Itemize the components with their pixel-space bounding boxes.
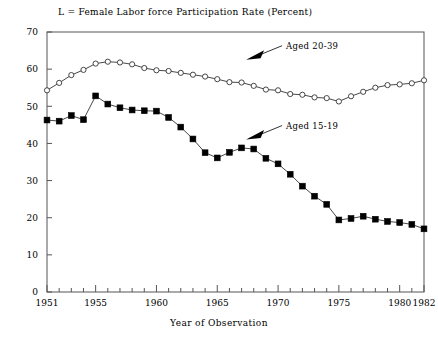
annotation-leader-line [260,46,282,55]
data-point-marker [227,80,232,85]
annotation-arrowhead [246,130,264,140]
data-point-marker [44,88,49,93]
data-series-layer [44,59,427,232]
x-tick-label: 1955 [84,298,107,308]
data-point-marker [190,136,196,142]
data-point-marker [348,216,354,222]
x-axis-label: Year of Observation [0,318,438,328]
data-point-marker [397,220,403,226]
data-point-marker [215,77,220,82]
data-point-marker [385,219,391,225]
data-point-marker [312,95,317,100]
y-tick-label: 40 [27,139,39,149]
data-point-marker [239,145,245,151]
data-point-marker [203,74,208,79]
plot-frame [47,32,424,292]
x-tick-label: 1975 [327,298,350,308]
data-point-marker [361,89,366,94]
data-point-marker [275,161,281,167]
data-point-marker [142,65,147,70]
data-point-marker [81,117,87,123]
data-point-marker [154,108,160,114]
data-point-marker [348,94,353,99]
data-point-marker [373,85,378,90]
data-point-marker [56,118,62,124]
data-point-marker [93,93,99,99]
data-point-marker [385,83,390,88]
data-point-marker [251,146,257,152]
data-point-marker [397,82,402,87]
data-point-marker [214,155,220,161]
data-point-marker [68,113,74,119]
y-tick-label: 50 [27,102,39,112]
x-tick-label: 1951 [36,298,59,308]
x-axis-ticks: 19511955196019651970197519801982 [36,285,436,308]
series-line [47,96,424,229]
data-point-marker [287,171,293,177]
data-point-marker [93,61,98,66]
annotation-leader-line [260,126,282,135]
data-point-marker [202,150,208,156]
data-point-marker [178,70,183,75]
data-point-marker [263,87,268,92]
data-point-marker [324,201,330,207]
data-point-marker [141,108,147,114]
x-tick-label: 1970 [267,298,290,308]
data-point-marker [299,183,305,189]
data-point-marker [166,68,171,73]
data-point-marker [105,101,111,107]
data-point-marker [336,99,341,104]
data-point-marker [178,124,184,130]
data-point-marker [288,91,293,96]
data-point-marker [300,92,305,97]
data-point-marker [360,213,366,219]
data-point-marker [81,67,86,72]
x-tick-label: 1980 [388,298,411,308]
y-tick-label: 60 [27,64,39,74]
data-point-marker [239,80,244,85]
data-point-marker [190,72,195,77]
data-point-marker [154,68,159,73]
data-point-marker [69,72,74,77]
series-line [47,62,424,102]
data-point-marker [129,107,135,113]
data-point-marker [421,226,427,232]
data-point-marker [117,60,122,65]
data-point-marker [166,115,172,121]
series-annotation-label: Aged 20-39 [285,41,338,51]
chart-plot-area: 010203040506070 195119551960196519701975… [0,0,438,340]
annotation-layer: Aged 20-39Aged 15-19 [246,41,338,140]
series-annotation-label: Aged 15-19 [285,121,338,131]
data-point-marker [130,62,135,67]
data-point-marker [227,149,233,155]
x-tick-label: 1982 [413,298,436,308]
y-tick-label: 10 [27,250,39,260]
x-tick-label: 1960 [145,298,168,308]
y-tick-label: 30 [27,176,39,186]
chart-title: L = Female Labor force Participation Rat… [58,7,312,17]
chart-container: L = Female Labor force Participation Rat… [0,0,438,340]
y-tick-label: 0 [32,287,38,297]
x-tick-label: 1965 [206,298,229,308]
data-point-marker [57,80,62,85]
annotation-arrowhead [246,50,264,60]
data-point-marker [312,193,318,199]
data-point-marker [117,105,123,111]
data-point-marker [324,96,329,101]
data-point-marker [336,217,342,223]
data-point-marker [105,59,110,64]
data-point-marker [421,78,426,83]
y-tick-label: 20 [27,213,39,223]
y-axis-ticks: 010203040506070 [27,27,52,297]
data-point-marker [275,88,280,93]
data-point-marker [372,216,378,222]
data-point-marker [409,222,415,228]
data-point-marker [44,117,50,123]
data-point-marker [263,155,269,161]
data-point-marker [409,81,414,86]
data-point-marker [251,83,256,88]
y-tick-label: 70 [27,27,39,37]
